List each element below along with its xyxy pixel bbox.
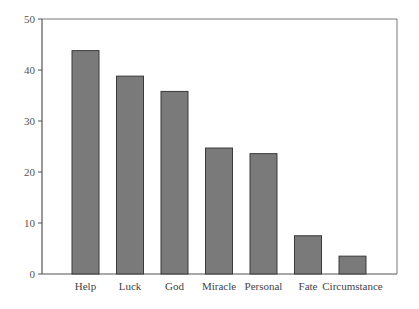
x-tick-label: Luck: [119, 280, 142, 292]
y-tick-label: 0: [30, 268, 36, 280]
bar-chart: 01020304050 HelpLuckGodMiraclePersonalFa…: [0, 0, 419, 309]
bar-miracle: [206, 148, 233, 274]
y-tick-label: 30: [24, 115, 36, 127]
x-tick-label: Help: [75, 280, 97, 292]
x-tick-label: Miracle: [202, 280, 236, 292]
x-tick-labels: HelpLuckGodMiraclePersonalFateCircumstan…: [75, 280, 383, 292]
x-tick-label: God: [165, 280, 184, 292]
bar-help: [72, 51, 99, 274]
bar-circumstance: [339, 256, 366, 274]
y-tick-label: 40: [24, 64, 36, 76]
bar-luck: [117, 76, 144, 274]
x-tick-label: Fate: [299, 280, 318, 292]
y-tick-label: 20: [24, 166, 36, 178]
bar-personal: [250, 154, 277, 274]
y-tick-label: 10: [24, 217, 36, 229]
y-tick-label: 50: [24, 13, 36, 25]
bar-god: [161, 91, 188, 274]
x-tick-label: Personal: [245, 280, 283, 292]
bar-fate: [295, 236, 322, 274]
x-tick-label: Circumstance: [322, 280, 383, 292]
bars: [72, 51, 366, 274]
y-ticks: 01020304050: [24, 13, 42, 280]
